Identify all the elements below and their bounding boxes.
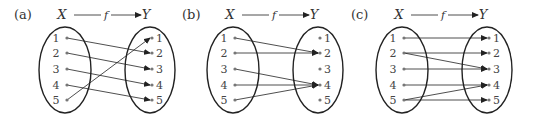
domain-dot-icon <box>402 36 405 39</box>
codomain-dot-icon <box>318 36 321 39</box>
domain-element-1: 1 <box>221 32 228 45</box>
mapping-arrow-5-to-4 <box>404 85 487 100</box>
mapping-arrow-5-to-1 <box>67 38 150 100</box>
domain-dot-icon <box>402 67 405 70</box>
diagram-label: (c) <box>351 7 368 22</box>
codomain-dot-icon <box>487 98 490 101</box>
codomain-dot-icon <box>318 98 321 101</box>
mapping-arrow-2-to-3 <box>67 53 150 69</box>
domain-element-2: 2 <box>53 47 60 60</box>
codomain-dot-icon <box>487 51 490 54</box>
codomain-dot-icon <box>318 83 321 86</box>
codomain-dot-icon <box>150 51 153 54</box>
codomain-dot-icon <box>487 36 490 39</box>
set-x-label: X <box>393 7 404 22</box>
codomain-element-5: 5 <box>493 94 500 107</box>
mapping-diagrams-svg: (a)XfY1122334455(b)XfY1122334455(c)XfY11… <box>0 0 539 123</box>
domain-element-3: 3 <box>53 63 60 76</box>
domain-dot-icon <box>402 83 405 86</box>
diagram-b: (b)XfY1122334455 <box>182 7 343 113</box>
domain-dot-icon <box>65 36 68 39</box>
domain-element-4: 4 <box>221 79 228 92</box>
domain-dot-icon <box>65 67 68 70</box>
codomain-dot-icon <box>150 36 153 39</box>
set-x-label: X <box>56 7 67 22</box>
codomain-dot-icon <box>150 98 153 101</box>
codomain-element-2: 2 <box>324 47 331 60</box>
domain-element-3: 3 <box>221 63 228 76</box>
mapping-arrow-1-to-2 <box>67 38 150 53</box>
mapping-arrow-3-to-4 <box>67 69 150 85</box>
codomain-dot-icon <box>150 67 153 70</box>
domain-dot-icon <box>65 83 68 86</box>
domain-element-2: 2 <box>221 47 228 60</box>
domain-dot-icon <box>233 98 236 101</box>
codomain-element-4: 4 <box>493 79 500 92</box>
mapping-arrow-3-to-4 <box>235 69 318 85</box>
domain-element-5: 5 <box>221 94 228 107</box>
domain-dot-icon <box>233 51 236 54</box>
set-y-label: Y <box>479 7 489 22</box>
codomain-element-2: 2 <box>156 47 163 60</box>
domain-element-4: 4 <box>390 79 397 92</box>
codomain-element-5: 5 <box>156 94 163 107</box>
mapping-arrow-4-to-5 <box>67 85 150 100</box>
mapping-arrow-5-to-4 <box>235 85 318 100</box>
domain-dot-icon <box>65 51 68 54</box>
codomain-dot-icon <box>487 83 490 86</box>
function-label: f <box>440 9 447 22</box>
set-y-label: Y <box>310 7 320 22</box>
codomain-dot-icon <box>487 67 490 70</box>
domain-dot-icon <box>402 51 405 54</box>
codomain-element-1: 1 <box>493 32 500 45</box>
codomain-element-4: 4 <box>156 79 163 92</box>
codomain-element-2: 2 <box>493 47 500 60</box>
domain-set-ellipse <box>39 27 91 113</box>
codomain-element-3: 3 <box>324 63 331 76</box>
domain-set-ellipse <box>207 27 259 113</box>
codomain-dot-icon <box>150 83 153 86</box>
diagram-c: (c)XfY1122334455 <box>351 7 512 113</box>
function-label: f <box>103 9 110 22</box>
diagram-label: (b) <box>182 7 200 22</box>
domain-element-1: 1 <box>53 32 60 45</box>
codomain-set-ellipse <box>125 27 175 113</box>
mapping-arrow-2-to-3 <box>404 53 487 69</box>
codomain-dot-icon <box>318 51 321 54</box>
codomain-element-4: 4 <box>324 79 331 92</box>
codomain-set-ellipse <box>293 27 343 113</box>
function-mapping-figure: (a)XfY1122334455(b)XfY1122334455(c)XfY11… <box>0 0 539 123</box>
diagram-label: (a) <box>14 7 32 22</box>
set-x-label: X <box>224 7 235 22</box>
diagram-a: (a)XfY1122334455 <box>14 7 175 113</box>
domain-element-5: 5 <box>53 94 60 107</box>
domain-element-5: 5 <box>390 94 397 107</box>
domain-element-3: 3 <box>390 63 397 76</box>
domain-element-4: 4 <box>53 79 60 92</box>
set-y-label: Y <box>142 7 152 22</box>
domain-dot-icon <box>65 98 68 101</box>
codomain-element-5: 5 <box>324 94 331 107</box>
codomain-element-3: 3 <box>493 63 500 76</box>
codomain-element-3: 3 <box>156 63 163 76</box>
domain-dot-icon <box>233 83 236 86</box>
domain-element-1: 1 <box>390 32 397 45</box>
domain-dot-icon <box>402 98 405 101</box>
function-label: f <box>271 9 278 22</box>
codomain-dot-icon <box>318 67 321 70</box>
mapping-arrow-1-to-2 <box>235 38 318 53</box>
domain-dot-icon <box>233 67 236 70</box>
domain-dot-icon <box>233 36 236 39</box>
codomain-element-1: 1 <box>156 32 163 45</box>
codomain-element-1: 1 <box>324 32 331 45</box>
domain-element-2: 2 <box>390 47 397 60</box>
